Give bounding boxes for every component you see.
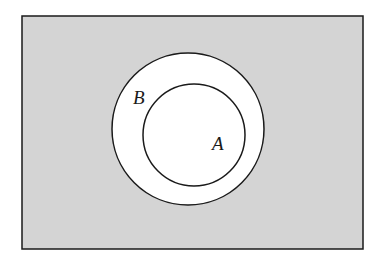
set-b-label: B	[133, 87, 145, 108]
venn-diagram: B A	[0, 0, 388, 264]
set-a-circle	[143, 84, 245, 186]
set-a-label: A	[210, 133, 224, 154]
